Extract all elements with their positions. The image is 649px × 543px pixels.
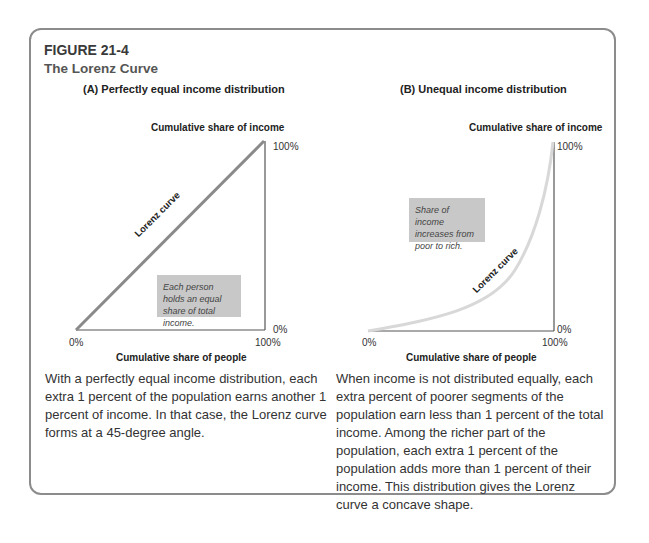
panel-b-note: Share of income increases from poor to r… [409, 198, 485, 242]
panel-b-caption: When income is not distributed equally, … [336, 370, 608, 514]
